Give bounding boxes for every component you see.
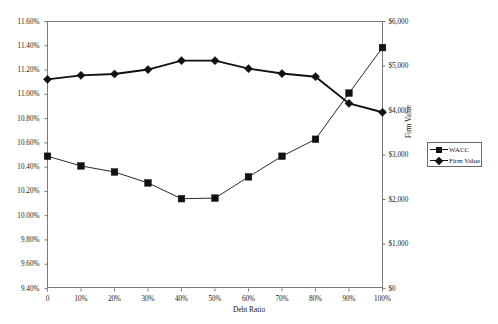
square-marker-icon — [430, 145, 448, 155]
y-axis-right-title: Firm Value — [404, 105, 413, 138]
legend-item-firm-value: Firm Value — [430, 155, 479, 166]
x-axis-title: Debt Ratio — [0, 305, 498, 314]
y-axis-left-tick-label: 10.60% — [0, 139, 40, 147]
chart-container: 11.60%11.40%11.20%11.00%10.80%10.60%10.4… — [0, 0, 498, 324]
y-axis-left-tick-label: 11.60% — [0, 18, 40, 26]
legend-item-wacc: WACC — [430, 144, 479, 155]
chart-legend: WACC Firm Value — [427, 142, 482, 167]
y-axis-left-tick-label: 10.40% — [0, 163, 40, 171]
y-axis-right-tick-label: $0 — [389, 285, 429, 293]
y-axis-left-tick-label: 9.80% — [0, 236, 40, 244]
y-axis-left-tick-label: 9.60% — [0, 260, 40, 268]
x-axis-tick-label: 100% — [363, 295, 403, 303]
y-axis-left-tick-label: 9.40% — [0, 285, 40, 293]
y-axis-left-tick-label: 11.00% — [0, 90, 40, 98]
y-axis-right-tick-label: $3,000 — [389, 151, 429, 159]
y-axis-right-tick-label: $6,000 — [389, 18, 429, 26]
y-axis-left-tick-label: 11.40% — [0, 42, 40, 50]
legend-label: WACC — [448, 146, 469, 154]
legend-label: Firm Value — [448, 157, 480, 165]
y-axis-right-tick-label: $5,000 — [389, 62, 429, 70]
y-axis-right-tick-label: $1,000 — [389, 240, 429, 248]
diamond-marker-icon — [430, 156, 448, 166]
y-axis-left-tick-label: 11.20% — [0, 66, 40, 74]
plot-area — [47, 21, 383, 288]
y-axis-left-tick-label: 10.80% — [0, 115, 40, 123]
y-axis-left-tick-label: 10.20% — [0, 187, 40, 195]
y-axis-right-tick-label: $2,000 — [389, 196, 429, 204]
y-axis-left-tick-label: 10.00% — [0, 212, 40, 220]
